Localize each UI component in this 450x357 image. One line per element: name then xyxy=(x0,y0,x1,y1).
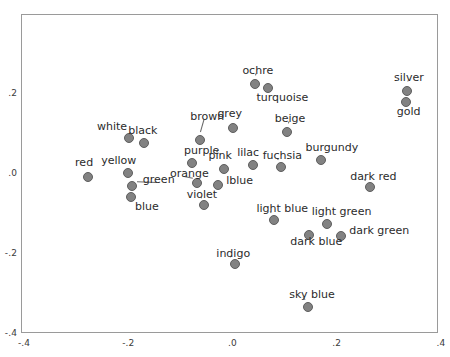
data-point-label: light green xyxy=(312,206,372,217)
data-point-label: white xyxy=(97,121,127,132)
data-point-label: blue xyxy=(135,201,159,212)
data-point-label: yellow xyxy=(101,155,136,166)
y-tick-label: -.2 xyxy=(2,248,17,258)
data-point[interactable] xyxy=(303,302,313,312)
data-point-label: black xyxy=(128,125,157,136)
data-point[interactable] xyxy=(139,138,149,148)
scatter-plot: -.4-.2.0.2.4.2.0-.2-.4 redwhiteblackyell… xyxy=(0,0,450,357)
data-point-label: indigo xyxy=(216,248,250,259)
data-point-label: ochre xyxy=(242,65,273,76)
y-tick-label: -.4 xyxy=(2,328,17,338)
data-point[interactable] xyxy=(230,259,240,269)
data-point-label: orange xyxy=(170,168,209,179)
x-tick-label: -.4 xyxy=(18,338,30,348)
data-point-label: silver xyxy=(394,72,424,83)
y-tick-label: .0 xyxy=(2,168,17,178)
data-point[interactable] xyxy=(228,123,238,133)
y-tick-label: .2 xyxy=(2,88,17,98)
data-point-label: red xyxy=(75,157,93,168)
data-point-label: lblue xyxy=(226,175,253,186)
x-tick-label: -.2 xyxy=(122,338,134,348)
data-point-label: dark green xyxy=(349,225,409,236)
data-point-label: lilac xyxy=(237,147,259,158)
data-point-label: grey xyxy=(217,108,242,119)
data-point-label: pink xyxy=(209,150,232,161)
data-point[interactable] xyxy=(219,164,229,174)
data-point-label: sky blue xyxy=(289,289,335,300)
data-point-label: light blue xyxy=(256,203,308,214)
data-point[interactable] xyxy=(250,79,260,89)
data-point-label: violet xyxy=(187,189,217,200)
data-point-label: turquoise xyxy=(256,92,308,103)
data-point[interactable] xyxy=(282,127,292,137)
data-point[interactable] xyxy=(402,86,412,96)
data-point[interactable] xyxy=(365,182,375,192)
x-tick-label: .2 xyxy=(332,338,341,348)
data-point-label: gold xyxy=(397,106,421,117)
data-point[interactable] xyxy=(199,200,209,210)
data-point[interactable] xyxy=(83,172,93,182)
data-point-label: burgundy xyxy=(305,142,358,153)
x-tick-label: .4 xyxy=(437,338,446,348)
data-point-label: fuchsia xyxy=(263,150,302,161)
data-point[interactable] xyxy=(192,178,202,188)
data-point[interactable] xyxy=(248,160,258,170)
data-point-label: dark blue xyxy=(290,236,342,247)
data-point-label: dark red xyxy=(350,171,396,182)
x-tick-label: .0 xyxy=(228,338,237,348)
data-point-label: beige xyxy=(275,113,306,124)
